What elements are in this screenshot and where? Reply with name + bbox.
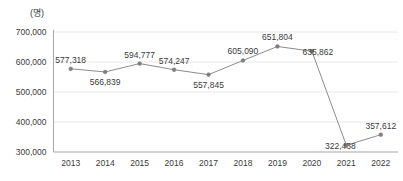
data-point-marker (207, 73, 211, 77)
y-tick-label: 700,000 (16, 27, 47, 37)
y-tick-label: 600,000 (16, 57, 47, 67)
data-label: 557,845 (193, 80, 224, 90)
y-tick-label: 300,000 (16, 147, 47, 157)
data-label: 651,804 (262, 32, 293, 42)
x-tick-label: 2020 (302, 158, 321, 168)
data-label: 574,247 (159, 56, 190, 66)
series-polyline (71, 46, 381, 145)
x-tick-label: 2015 (130, 158, 149, 168)
data-label: 605,090 (228, 46, 259, 56)
data-point-marker (241, 59, 245, 63)
chart-canvas: 300,000400,000500,000600,000700,000 2013… (0, 0, 403, 181)
x-tick-label: 2017 (199, 158, 218, 168)
data-point-marker (103, 70, 107, 74)
series-markers (69, 45, 383, 148)
y-tick-labels: 300,000400,000500,000600,000700,000 (16, 27, 47, 157)
y-tick-label: 400,000 (16, 117, 47, 127)
x-tick-label: 2022 (371, 158, 390, 168)
x-tick-label: 2019 (268, 158, 287, 168)
data-label: 635,862 (303, 47, 334, 57)
data-point-marker (138, 62, 142, 66)
data-label: 322,438 (325, 141, 356, 151)
data-point-marker (69, 67, 73, 71)
data-label: 577,318 (55, 55, 86, 65)
x-tick-label: 2014 (96, 158, 115, 168)
x-tick-label: 2021 (337, 158, 356, 168)
line-chart: (명) 300,000400,000500,000600,000700,000 … (0, 0, 403, 181)
series-line (71, 46, 381, 145)
data-label: 594,777 (124, 50, 155, 60)
data-label: 357,612 (365, 121, 396, 131)
x-tick-labels: 2013201420152016201720182019202020212022 (61, 158, 390, 168)
x-tick-label: 2016 (165, 158, 184, 168)
data-point-marker (379, 133, 383, 137)
y-tick-label: 500,000 (16, 87, 47, 97)
x-tick-label: 2018 (234, 158, 253, 168)
data-label: 566,839 (90, 77, 121, 87)
data-point-marker (172, 68, 176, 72)
data-point-marker (276, 45, 280, 49)
x-tick-label: 2013 (61, 158, 80, 168)
